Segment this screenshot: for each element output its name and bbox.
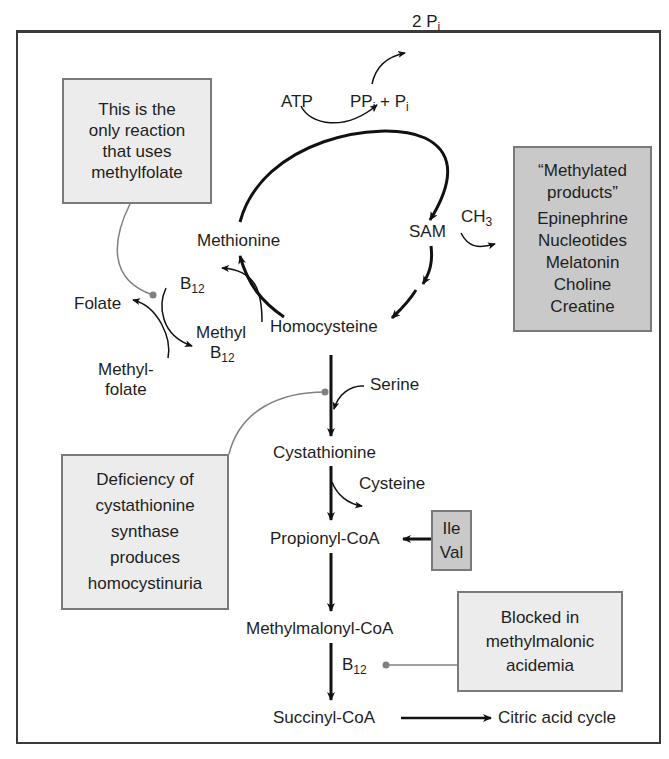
label-citric-acid-cycle: Citric acid cycle <box>498 708 616 728</box>
arrow-to-homocysteine <box>392 290 416 318</box>
arrow-cysteine-out <box>332 482 362 506</box>
arrow-ch3-out <box>461 233 495 246</box>
label-cysteine: Cysteine <box>359 474 425 494</box>
label-cystathionine: Cystathionine <box>273 443 376 463</box>
label-atp: ATP <box>281 92 313 112</box>
label-ch3: CH3 <box>461 207 492 227</box>
note-methylated-products: “Methylated products” Epinephrine Nucleo… <box>513 146 652 332</box>
label-b12-mutase: B12 <box>342 655 367 675</box>
label-propionyl-coa: Propionyl-CoA <box>270 529 380 549</box>
arrow-methylb12-to-b12 <box>222 268 262 322</box>
label-2pi: 2 Pi <box>412 12 440 32</box>
arrow-sam-down <box>423 246 432 284</box>
pointer-methylfolate-note <box>117 204 153 295</box>
label-folate: Folate <box>74 294 121 314</box>
note-ile-val: Ile Val <box>431 510 472 571</box>
label-ppi-pi: PPi + Pi <box>350 92 409 112</box>
label-sam: SAM <box>409 222 446 242</box>
note-methylmalonic-acidemia: Blocked in methylmalonic acidemia <box>457 591 623 692</box>
label-succinyl-coa: Succinyl-CoA <box>273 708 375 728</box>
arrow-methionine-to-sam <box>240 131 448 222</box>
label-methyl-b12: Methyl B12 <box>196 323 246 363</box>
label-methylfolate: Methyl- folate <box>98 360 154 400</box>
arrow-serine-in <box>334 386 364 409</box>
label-methylmalonyl-coa: Methylmalonyl-CoA <box>246 619 393 639</box>
label-methionine: Methionine <box>197 231 280 251</box>
note-methylfolate: This is the only reaction that uses meth… <box>62 78 212 204</box>
label-b12: B12 <box>180 274 205 294</box>
label-homocysteine: Homocysteine <box>270 317 378 337</box>
arrow-ppi-to-2pi <box>372 53 405 84</box>
label-serine: Serine <box>370 375 419 395</box>
arrow-methylfolate-to-folate <box>133 300 169 358</box>
note-homocystinuria: Deficiency of cystathionine synthase pro… <box>61 454 229 610</box>
